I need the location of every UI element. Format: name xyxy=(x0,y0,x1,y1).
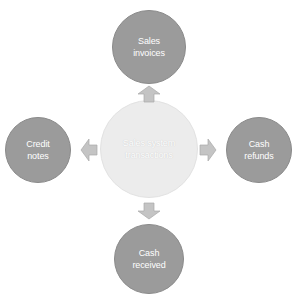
center-label: Sales system transactions xyxy=(123,137,175,161)
node-label: Sales invoices xyxy=(133,35,165,59)
node-cash-refunds: Cash refunds xyxy=(226,117,292,183)
arrow-down-icon xyxy=(138,203,160,219)
node-credit-notes: Credit notes xyxy=(5,117,71,183)
node-label: Cash received xyxy=(132,247,165,271)
node-label: Cash refunds xyxy=(244,138,273,162)
node-sales-invoices: Sales invoices xyxy=(112,10,186,84)
arrow-right-icon xyxy=(200,139,216,161)
node-cash-received: Cash received xyxy=(114,224,184,294)
arrow-left-icon xyxy=(81,139,97,161)
node-label: Credit notes xyxy=(26,138,49,162)
arrow-up-icon xyxy=(138,86,160,102)
node-sales-system-transactions: Sales system transactions xyxy=(100,100,198,198)
